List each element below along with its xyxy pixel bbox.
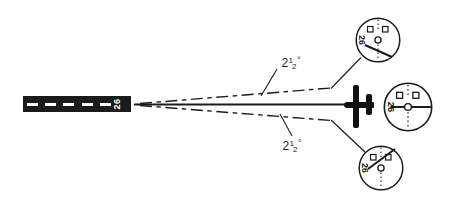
upper-beam-angle-label: 212° (281, 54, 300, 71)
runway-number-label: 26 (113, 98, 122, 109)
dot-marker-square-left (371, 155, 377, 161)
runway: 26 (23, 96, 131, 112)
angle-denominator: 2 (293, 145, 297, 154)
dot-marker-square-right (383, 27, 389, 33)
dot-marker-square-left (397, 92, 403, 98)
runway-centerline-dash (63, 103, 74, 106)
lower-beam-angle-label: 212° (282, 137, 301, 154)
runway-centerline-dash (100, 103, 111, 106)
runway-centerline-dash (27, 103, 38, 106)
angle-whole: 2 (282, 139, 289, 153)
dot-marker-square-left (368, 27, 374, 33)
angle-denominator: 2 (292, 62, 296, 71)
cdi-indicator-middle: 26 (383, 82, 433, 132)
center-reference-circle (378, 165, 384, 171)
dial-course-label: 26 (386, 102, 396, 112)
aircraft-wings (353, 85, 359, 128)
degree-symbol: ° (298, 138, 302, 148)
beam-edge-lower (140, 106, 331, 121)
beam-edge-upper (140, 88, 331, 104)
runway-centerline-dash (45, 103, 56, 106)
degree-symbol: ° (297, 55, 301, 65)
center-reference-circle (405, 104, 412, 111)
cdi-indicator-bottom: 26 (358, 145, 404, 191)
aircraft-tailplane (366, 94, 372, 115)
angle-whole: 2 (281, 56, 288, 70)
dot-marker-square-right (413, 92, 419, 98)
cdi-indicator-top: 26 (355, 17, 401, 63)
center-reference-circle (375, 37, 381, 43)
dial-course-label: 26 (360, 163, 370, 173)
runway-centerline-dash (82, 103, 93, 106)
localizer-beam-diagram: 26 212° 212° 26 26 (0, 0, 449, 203)
dial-course-label: 26 (357, 35, 367, 45)
